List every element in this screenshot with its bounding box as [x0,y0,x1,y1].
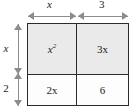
area-model-diagram: x 3 x 2 x2 3x 2x 6 [0,0,131,107]
cell-bottom-left-label: 2x [46,85,57,96]
arrow-shaft [18,24,19,74]
left-top-dimension-arrow [13,24,24,74]
left-top-dimension-label: x [1,43,11,54]
arrow-head-up-icon [14,24,22,30]
cell-top-left: x2 [28,24,77,75]
arrow-head-up-icon [14,73,22,79]
arrow-shaft [28,16,76,17]
arrow-head-left-icon [78,12,84,20]
cell-top-right-label: 3x [97,44,108,55]
top-right-dimension-label: 3 [97,0,107,10]
left-bottom-dimension-label: 2 [1,83,11,94]
left-bottom-dimension-arrow [13,73,24,106]
cell-bottom-right: 6 [77,75,128,105]
arrow-head-right-icon [122,12,128,20]
arrow-head-left-icon [28,12,34,20]
cell-top-right: 3x [77,24,128,75]
arrow-head-down-icon [14,100,22,106]
top-right-dimension-arrow [78,11,128,22]
top-left-dimension-arrow [28,11,76,22]
cell-top-left-exponent: 2 [53,42,57,50]
arrow-head-right-icon [70,12,76,20]
arrow-shaft [78,16,128,17]
area-model-grid: x2 3x 2x 6 [27,23,129,106]
top-left-dimension-label: x [45,0,54,10]
cell-top-left-label: x2 [48,44,57,55]
cell-bottom-right-label: 6 [100,85,106,96]
cell-bottom-left: 2x [28,75,77,105]
